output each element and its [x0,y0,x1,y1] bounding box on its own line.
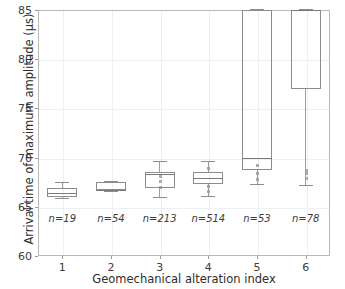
x-tick-mark [306,256,307,259]
gridline-vertical [258,11,259,255]
y-axis-label: Arrival time of maximum amplitude (μs) [22,4,36,254]
gridline-vertical [112,11,113,255]
gridline-vertical [63,11,64,255]
plot-area [38,10,330,256]
gridline-vertical [161,11,162,255]
gridline-horizontal [39,159,329,160]
boxplot-figure: 606570758085123456n=19n=54n=213n=514n=53… [0,0,345,289]
gridline-horizontal [39,109,329,110]
gridline-vertical [307,11,308,255]
x-tick-mark [62,256,63,259]
gridline-horizontal [39,60,329,61]
x-tick-mark [160,256,161,259]
x-tick-mark [111,256,112,259]
x-axis-label: Geomechanical alteration index [38,272,330,286]
x-tick-mark [257,256,258,259]
gridline-horizontal [39,208,329,209]
y-tick-mark [35,256,38,257]
x-tick-mark [208,256,209,259]
gridline-vertical [209,11,210,255]
